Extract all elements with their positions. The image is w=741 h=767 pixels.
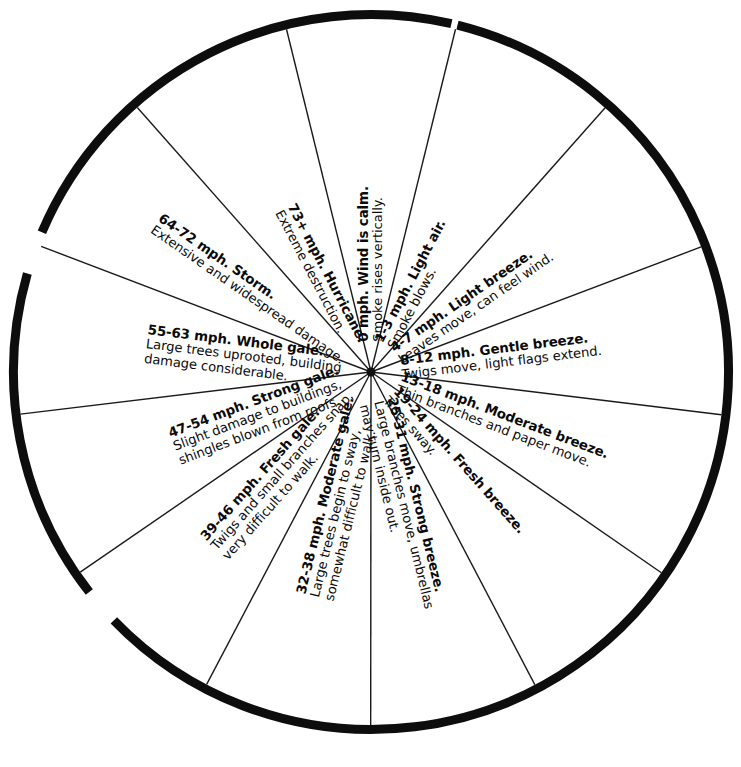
- segment-divider-light-breeze: [371, 108, 605, 372]
- outer-ring-arc-0: [114, 25, 729, 729]
- segment-divider-gentle-breeze: [371, 247, 701, 372]
- wheel-graphic: [0, 0, 741, 767]
- segment-divider-fresh-gale: [207, 372, 371, 684]
- wheel-hub: [367, 368, 376, 377]
- segment-divider-hurricane: [137, 107, 371, 372]
- segment-spokes: [21, 29, 722, 725]
- segment-divider-storm: [41, 246, 371, 372]
- beaufort-wind-scale-wheel: 0 mph. Wind is calm.Smoke rises vertical…: [0, 0, 741, 767]
- segment-divider-calm: [286, 29, 371, 372]
- segment-divider-strong-breeze: [371, 372, 535, 685]
- segment-divider-light-air: [371, 29, 456, 372]
- outer-ring-arc-2: [42, 15, 452, 233]
- outer-ring-arc-1: [14, 273, 90, 592]
